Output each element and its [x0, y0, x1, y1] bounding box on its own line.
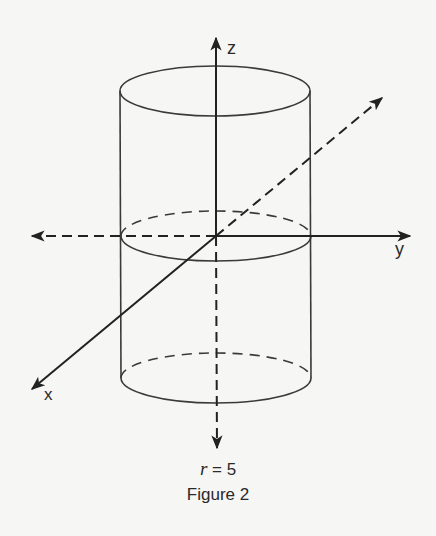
x-axis-negative [216, 98, 382, 236]
x-axis-label: x [44, 386, 53, 403]
z-axis-label: z [227, 39, 236, 57]
caption-value: = 5 [207, 460, 236, 479]
z-axis-negative [216, 236, 217, 448]
caption-equation: r = 5 [0, 459, 436, 478]
figure-caption: Figure 2 [0, 486, 436, 503]
x-axis-positive [32, 236, 216, 389]
cylinder-diagram [0, 0, 436, 536]
cylinder-right-edge [310, 91, 311, 378]
y-axis-label: y [395, 240, 404, 258]
